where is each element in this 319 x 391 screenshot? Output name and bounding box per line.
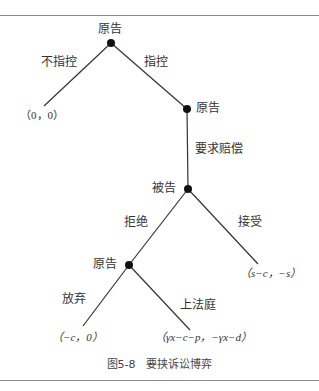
edge-accuse — [111, 43, 187, 109]
node-defendant — [184, 185, 192, 193]
node-label-defendant: 被告 — [152, 181, 176, 195]
edge-label-court: 上法庭 — [180, 298, 216, 312]
edge-label-not-accuse: 不指控 — [41, 55, 77, 69]
node-plaintiff2 — [183, 105, 191, 113]
edge-label-accept: 接受 — [238, 215, 262, 229]
edge-label-accuse: 指控 — [144, 55, 168, 69]
edge-abandon — [83, 265, 129, 326]
node-plaintiff3 — [125, 261, 133, 269]
edge-demand — [187, 109, 188, 189]
node-label-root: 原告 — [98, 22, 122, 36]
edge-not-accuse — [44, 43, 111, 106]
payoff-court: （γx−c−p，−γx−d） — [155, 330, 252, 344]
node-root — [107, 39, 115, 47]
node-label-plaintiff2: 原告 — [196, 101, 220, 115]
figure-caption: 图5-8 要挟诉讼博弈 — [0, 355, 319, 371]
node-label-plaintiff3: 原告 — [93, 257, 117, 271]
edge-label-refuse: 拒绝 — [124, 215, 148, 229]
payoff-abandon: （−c，0） — [52, 330, 103, 344]
edge-label-abandon: 放弃 — [62, 292, 86, 306]
payoff-not-accuse: （0，0） — [20, 108, 64, 122]
payoff-accept: （s−c，−s） — [240, 266, 301, 280]
edge-label-demand: 要求赔偿 — [195, 142, 243, 156]
